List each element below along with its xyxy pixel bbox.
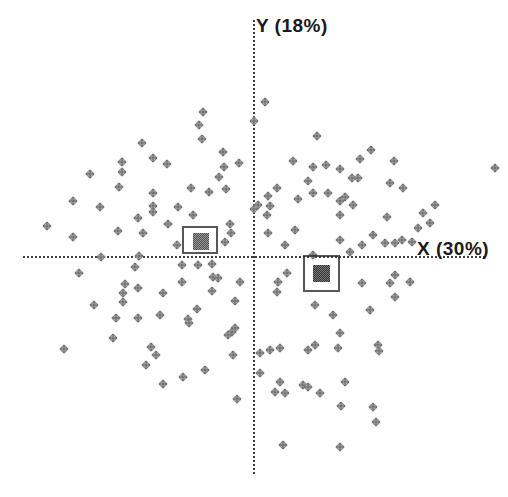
scatter-point (172, 240, 182, 250)
scatter-point (118, 297, 128, 307)
scatter-point (198, 107, 208, 117)
scatter-point (398, 183, 408, 193)
scatter-point (158, 288, 168, 298)
scatter-point (348, 200, 358, 210)
scatter-point (148, 188, 158, 198)
scatter-point (260, 97, 270, 107)
scatter-point (390, 270, 400, 280)
scatter-point (113, 226, 123, 236)
scatter-point (278, 440, 288, 450)
scatter-point (366, 145, 376, 155)
scatter-point (117, 167, 127, 177)
scatter-point (335, 442, 345, 452)
scatter-point (188, 210, 198, 220)
scatter-point (134, 251, 144, 261)
scatter-point (74, 268, 84, 278)
scatter-point (355, 154, 365, 164)
scatter-point (335, 235, 345, 245)
scatter-point (328, 310, 338, 320)
scatter-point (418, 208, 428, 218)
scatter-point (192, 304, 202, 314)
scatter-point (133, 213, 143, 223)
scatter-point (218, 147, 228, 157)
scatter-point (68, 196, 78, 206)
x-axis-label: X (30%) (417, 238, 489, 260)
scatter-point (380, 238, 390, 248)
scatter-point (155, 310, 165, 320)
y-axis-line (253, 20, 255, 474)
scatter-point (137, 138, 147, 148)
scatter-point (263, 191, 273, 201)
scatter-point (382, 212, 392, 222)
scatter-point (120, 279, 130, 289)
scatter-point (193, 260, 203, 270)
scatter-point (255, 348, 265, 358)
scatter-point (272, 183, 282, 193)
scatter-biplot-figure: Y (18%) X (30%) (0, 0, 508, 497)
scatter-point (275, 343, 285, 353)
scatter-point (385, 178, 395, 188)
scatter-point (405, 277, 415, 287)
scatter-point (141, 360, 151, 370)
scatter-point (133, 313, 143, 323)
scatter-point (68, 232, 78, 242)
scatter-point (226, 228, 236, 238)
scatter-point (303, 176, 313, 186)
scatter-point (272, 287, 282, 297)
scatter-point (96, 252, 106, 262)
scatter-point (365, 305, 375, 315)
scatter-point (265, 345, 275, 355)
scatter-point (374, 346, 384, 356)
scatter-point (234, 158, 244, 168)
scatter-point (310, 300, 320, 310)
scatter-point (213, 273, 223, 283)
scatter-point (288, 156, 298, 166)
scatter-point (194, 120, 204, 130)
scatter-point (85, 169, 95, 179)
scatter-point (177, 277, 187, 287)
scatter-point (114, 182, 124, 192)
scatter-point (133, 283, 143, 293)
scatter-point (390, 292, 400, 302)
scatter-point (368, 402, 378, 412)
scatter-point (207, 286, 217, 296)
right-square-marker-fill (313, 265, 330, 282)
scatter-point (148, 153, 158, 163)
scatter-point (214, 172, 224, 182)
scatter-point (353, 173, 363, 183)
scatter-point (270, 387, 280, 397)
scatter-point (280, 240, 290, 250)
scatter-point (263, 228, 273, 238)
scatter-point (197, 134, 207, 144)
scatter-point (108, 333, 118, 343)
scatter-point (308, 162, 318, 172)
scatter-point (219, 162, 229, 172)
scatter-point (308, 188, 318, 198)
scatter-point (95, 202, 105, 212)
scatter-point (163, 219, 173, 229)
scatter-point (333, 343, 343, 353)
scatter-point (235, 277, 245, 287)
scatter-point (158, 379, 168, 389)
scatter-point (151, 350, 161, 360)
scatter-point (138, 228, 148, 238)
scatter-point (184, 318, 194, 328)
scatter-point (162, 159, 172, 169)
scatter-point (335, 328, 345, 338)
scatter-point (425, 218, 435, 228)
scatter-point (273, 277, 283, 287)
scatter-point (321, 160, 331, 170)
scatter-point (357, 278, 367, 288)
scatter-point (228, 350, 238, 360)
scatter-point (59, 344, 69, 354)
scatter-point (148, 207, 158, 217)
scatter-point (178, 372, 188, 382)
scatter-point (130, 262, 140, 272)
scatter-point (111, 313, 121, 323)
scatter-point (200, 365, 210, 375)
scatter-point (117, 157, 127, 167)
scatter-point (42, 221, 52, 231)
scatter-point (177, 260, 187, 270)
scatter-point (249, 116, 259, 126)
y-axis-label: Y (18%) (256, 15, 328, 37)
